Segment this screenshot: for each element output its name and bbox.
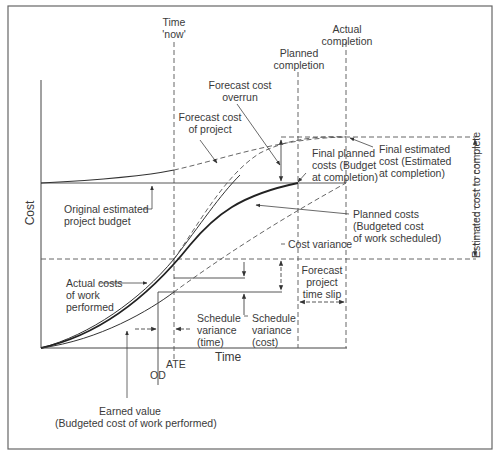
y-axis-label: Cost — [23, 201, 37, 226]
planned-costs-leader — [256, 205, 349, 214]
forecast-overrun-leader — [237, 104, 280, 165]
final-estimated-cost-label: Final estimated cost (Estimated at compl… — [379, 143, 451, 179]
schedule-variance-time-label: Schedule variance (time) — [197, 312, 241, 348]
original-budget-label: Original estimated project budget — [64, 203, 149, 227]
forecast-cost-project-leader — [200, 140, 217, 163]
time-now-label: Time 'now' — [157, 16, 191, 40]
schedule-variance-cost-label: Schedule variance (cost) — [252, 312, 296, 348]
forecast-cost-of-project-curve — [41, 170, 174, 183]
planned-costs-label: Planned costs (Budgeted cost of work sch… — [353, 208, 441, 244]
forecast-time-slip-label: Forecast project time slip — [298, 264, 346, 300]
actual-costs-label: Actual costs of work performed — [66, 277, 123, 313]
planned-completion-label: Planned completion — [271, 47, 327, 71]
forecast-cost-of-project-label: Forecast cost of project — [178, 111, 242, 135]
od-label: OD — [150, 369, 166, 381]
x-axis-label: Time — [215, 351, 241, 363]
cost-variance-label: Cost variance — [288, 238, 352, 250]
earned-value-label: Earned value (Budgeted cost of work perf… — [55, 405, 205, 429]
final-estimated-leader — [350, 138, 373, 147]
actual-completion-label: Actual completion — [319, 23, 375, 47]
ate-label: ATE — [166, 358, 186, 370]
estimated-cost-to-complete-label: Estimated cost to complete — [470, 138, 482, 258]
final-planned-costs-label: Final planned costs (Budget at completio… — [312, 147, 378, 183]
final-planned-leader — [298, 173, 306, 182]
forecast-cost-overrun-label: Forecast cost overrun — [205, 79, 275, 103]
